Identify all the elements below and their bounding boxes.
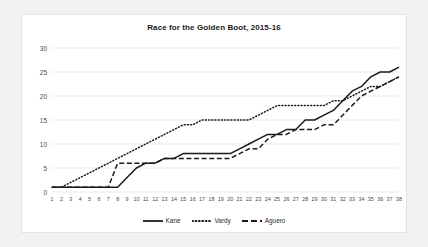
legend-swatch-aguero: [242, 218, 262, 224]
x-axis-tick-label: 5: [88, 196, 91, 202]
x-axis-tick-label: 27: [293, 196, 299, 202]
x-axis-tick-label: 14: [171, 196, 177, 202]
chart-card: Race for the Golden Boot, 2015-16 051015…: [21, 14, 407, 233]
y-axis-tick-label: 20: [31, 93, 47, 100]
x-axis-tick-label: 15: [180, 196, 186, 202]
legend-label: Vardy: [215, 217, 231, 224]
x-axis-tick-label: 16: [190, 196, 196, 202]
x-axis-tick-label: 29: [312, 196, 318, 202]
x-axis-tick-label: 23: [255, 196, 261, 202]
x-axis-tick-label: 4: [79, 196, 82, 202]
y-axis-tick-label: 25: [31, 69, 47, 76]
x-axis-tick-label: 26: [283, 196, 289, 202]
x-axis-tick-label: 10: [133, 196, 139, 202]
x-axis-tick-label: 31: [330, 196, 336, 202]
x-axis-tick-label: 18: [208, 196, 214, 202]
y-axis-tick-label: 15: [31, 117, 47, 124]
legend-swatch-kane: [143, 218, 163, 224]
x-axis-tick-label: 37: [387, 196, 393, 202]
legend-item-aguero: Aguero: [242, 217, 286, 224]
series-line-aguero: [52, 77, 399, 187]
y-axis-tick-label: 30: [31, 45, 47, 52]
legend-item-vardy: Vardy: [192, 217, 231, 224]
x-axis-tick-label: 13: [162, 196, 168, 202]
x-axis-tick-label: 1: [51, 196, 54, 202]
y-axis-tick-label: 5: [31, 165, 47, 172]
series-line-kane: [52, 67, 399, 187]
x-axis-tick-label: 22: [246, 196, 252, 202]
legend-item-kane: Kane: [143, 217, 181, 224]
x-axis-tick-label: 19: [218, 196, 224, 202]
x-axis-tick-label: 6: [97, 196, 100, 202]
x-axis-tick-label: 2: [60, 196, 63, 202]
x-axis-tick-label: 28: [302, 196, 308, 202]
legend-label: Aguero: [265, 217, 286, 224]
legend-label: Kane: [166, 217, 181, 224]
x-axis-tick-label: 36: [377, 196, 383, 202]
x-axis-tick-label: 7: [107, 196, 110, 202]
x-axis-tick-label: 24: [265, 196, 271, 202]
y-axis-tick-label: 10: [31, 141, 47, 148]
x-axis-tick-label: 25: [274, 196, 280, 202]
x-axis-tick-label: 33: [349, 196, 355, 202]
x-axis-tick-label: 11: [143, 196, 149, 202]
x-axis-tick-label: 9: [126, 196, 129, 202]
legend-swatch-vardy: [192, 218, 212, 224]
x-axis-tick-label: 3: [69, 196, 72, 202]
series-line-vardy: [52, 77, 399, 187]
x-axis-tick-label: 35: [368, 196, 374, 202]
x-axis-tick-label: 8: [116, 196, 119, 202]
x-axis-tick-label: 21: [237, 196, 243, 202]
x-axis-tick-label: 38: [396, 196, 402, 202]
x-axis-tick-label: 34: [358, 196, 364, 202]
y-axis-tick-label: 0: [31, 189, 47, 196]
plot-area: 0510152025301234567891011121314151617181…: [22, 15, 408, 234]
x-axis-tick-label: 17: [199, 196, 205, 202]
x-axis-tick-label: 12: [152, 196, 158, 202]
x-axis-tick-label: 30: [321, 196, 327, 202]
chart-legend: KaneVardyAguero: [22, 217, 406, 224]
x-axis-tick-label: 20: [227, 196, 233, 202]
x-axis-tick-label: 32: [340, 196, 346, 202]
